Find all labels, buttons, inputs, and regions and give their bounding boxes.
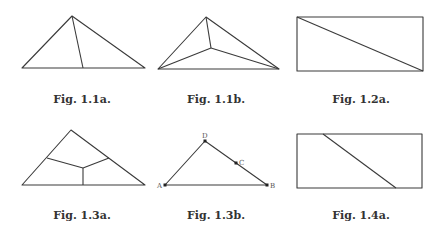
fig-1-2a-drawing [297, 17, 423, 71]
triangle-outline [22, 16, 145, 68]
fig-1-3a-drawing [22, 130, 145, 185]
point-b-label: B [270, 182, 275, 190]
point-a-marker [164, 184, 167, 187]
fig-1-3b-drawing: A B C D [156, 132, 275, 190]
inner-segment [211, 48, 279, 69]
caption-fig-1-2a: Fig. 1.2a. [332, 93, 389, 106]
inner-segment [206, 17, 211, 48]
point-a-label: A [156, 182, 163, 190]
inner-segment [72, 16, 83, 68]
path-adb [165, 141, 267, 185]
fig-1-1b-drawing [158, 17, 279, 69]
diagonal-segment [297, 17, 423, 71]
caption-fig-1-3b: Fig. 1.3b. [187, 209, 245, 222]
point-b-marker [266, 184, 269, 187]
triangle-outline [158, 17, 279, 69]
inner-segment [47, 158, 83, 168]
figure-canvas: A B C D [0, 0, 440, 235]
diagonal-segment [323, 134, 396, 188]
inner-segment [158, 48, 211, 69]
fig-1-1a-drawing [22, 16, 145, 68]
point-d-label: D [202, 132, 208, 140]
caption-fig-1-4a: Fig. 1.4a. [332, 209, 389, 222]
caption-fig-1-3a: Fig. 1.3a. [53, 209, 110, 222]
point-c-label: C [239, 159, 244, 167]
inner-segment [83, 158, 109, 168]
fig-1-4a-drawing [297, 134, 422, 188]
point-c-marker [235, 162, 238, 165]
caption-fig-1-1a: Fig. 1.1a. [53, 93, 110, 106]
caption-fig-1-1b: Fig. 1.1b. [187, 93, 245, 106]
